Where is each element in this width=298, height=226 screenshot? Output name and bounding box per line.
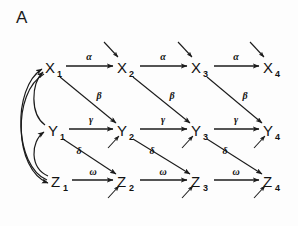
- node-sub-z3: 3: [203, 183, 208, 193]
- node-x4: X 4: [263, 59, 280, 79]
- edge-label-omega-3: ω: [232, 166, 239, 177]
- node-y3: Y 3: [191, 122, 208, 142]
- edge-label-delta-2: δ: [149, 145, 154, 156]
- feedback-arcs: [21, 69, 48, 183]
- edge-label-gamma-3: γ: [234, 114, 239, 125]
- disturbances-x-row: [104, 42, 264, 57]
- edge-label-delta-1: δ: [76, 145, 81, 156]
- node-sub-x4: 4: [275, 69, 280, 79]
- node-z4: Z 4: [263, 173, 280, 193]
- path-diagram: α α α γ γ γ ω ω ω β β β: [0, 0, 298, 226]
- feedback-arc-z1-y1: [34, 132, 48, 176]
- edge-label-omega-1: ω: [89, 166, 96, 177]
- node-label-y4: Y: [263, 122, 273, 139]
- node-label-y2: Y: [117, 122, 127, 139]
- edge-label-beta-1: β: [95, 90, 102, 101]
- node-sub-y3: 3: [203, 132, 208, 142]
- node-z1: Z 1: [51, 173, 68, 193]
- node-z2: Z 2: [117, 173, 134, 193]
- edge-label-beta-2: β: [168, 90, 175, 101]
- node-label-x3: X: [191, 59, 201, 76]
- node-label-x1: X: [45, 59, 55, 76]
- feedback-arc-z1-x1: [21, 69, 47, 180]
- edge-label-alpha-2: α: [160, 51, 166, 62]
- edge-label-gamma-1: γ: [89, 114, 94, 125]
- node-label-y3: Y: [191, 122, 201, 139]
- node-y4: Y 4: [263, 122, 280, 142]
- disturbance-arrow-x4: [250, 42, 264, 57]
- node-sub-y2: 2: [129, 132, 134, 142]
- node-sub-x3: 3: [203, 69, 208, 79]
- node-y2: Y 2: [117, 122, 134, 142]
- edge-label-delta-3: δ: [222, 145, 227, 156]
- edges-x-row: α α α: [66, 51, 259, 66]
- figure-panel: A α α α γ γ γ: [0, 0, 298, 226]
- node-x1: X 1: [45, 59, 62, 79]
- node-sub-y1: 1: [60, 132, 65, 142]
- node-sub-x1: 1: [57, 69, 62, 79]
- node-sub-y4: 4: [275, 132, 280, 142]
- node-sub-z1: 1: [63, 183, 68, 193]
- node-x2: X 2: [117, 59, 134, 79]
- node-x3: X 3: [191, 59, 208, 79]
- edge-label-beta-3: β: [241, 90, 248, 101]
- node-y1: Y 1: [48, 122, 65, 142]
- edge-label-alpha-3: α: [233, 51, 239, 62]
- edges-y-row: γ γ γ: [69, 114, 259, 129]
- node-label-z4: Z: [263, 173, 272, 190]
- edge-label-alpha-1: α: [86, 51, 92, 62]
- node-label-z3: Z: [191, 173, 200, 190]
- edge-label-omega-2: ω: [159, 166, 166, 177]
- node-sub-z4: 4: [275, 183, 280, 193]
- disturbance-arrow-x3: [178, 42, 192, 57]
- node-label-z2: Z: [117, 173, 126, 190]
- node-sub-z2: 2: [129, 183, 134, 193]
- node-label-z1: Z: [51, 173, 60, 190]
- edges-z-row: ω ω ω: [72, 166, 259, 180]
- node-sub-x2: 2: [129, 69, 134, 79]
- node-label-y1: Y: [48, 122, 58, 139]
- node-label-x2: X: [117, 59, 127, 76]
- node-label-x4: X: [263, 59, 273, 76]
- feedback-arc-y1-x1: [34, 72, 45, 125]
- disturbance-arrow-x2: [104, 42, 118, 57]
- edge-label-gamma-2: γ: [161, 114, 166, 125]
- node-z3: Z 3: [191, 173, 208, 193]
